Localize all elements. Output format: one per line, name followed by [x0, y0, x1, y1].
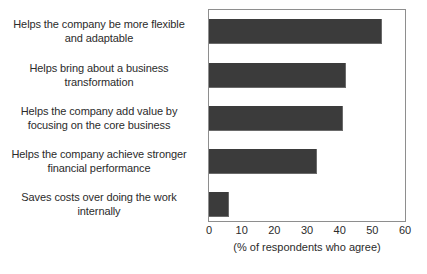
category-label-1-line-0: Helps bring about a business [0, 62, 198, 76]
bar-2 [209, 106, 343, 131]
category-label-3: Helps the company achieve stronger finan… [0, 148, 198, 175]
x-tick-label-0: 0 [206, 224, 212, 237]
category-label-2-line-0: Helps the company add value by [0, 105, 198, 119]
category-label-0-line-1: and adaptable [0, 32, 198, 46]
category-label-1: Helps bring about a business transformat… [0, 62, 198, 89]
bar-chart: Helps the company be more flexible and a… [0, 0, 427, 274]
bar-0 [209, 19, 382, 44]
category-label-4: Saves costs over doing the work internal… [0, 191, 198, 218]
category-label-3-line-1: financial performance [0, 162, 198, 176]
bar-3 [209, 149, 317, 174]
category-label-3-line-0: Helps the company achieve stronger [0, 148, 198, 162]
category-label-4-line-0: Saves costs over doing the work [0, 191, 198, 205]
x-tick-label-40: 40 [334, 224, 346, 237]
bars-layer [209, 10, 405, 221]
category-label-4-line-1: internally [0, 205, 198, 219]
category-label-0-line-0: Helps the company be more flexible [0, 18, 198, 32]
category-labels: Helps the company be more flexible and a… [0, 9, 203, 222]
category-label-2: Helps the company add value by focusing … [0, 105, 198, 132]
plot-area [208, 9, 406, 222]
x-tick-label-30: 30 [301, 224, 313, 237]
x-tick-label-50: 50 [366, 224, 378, 237]
category-label-1-line-1: transformation [0, 76, 198, 90]
x-tick-label-60: 60 [399, 224, 411, 237]
x-axis-title: (% of respondents who agree) [208, 240, 406, 254]
x-tick-label-20: 20 [268, 224, 280, 237]
category-label-2-line-1: focusing on the core business [0, 119, 198, 133]
bar-4 [209, 192, 229, 217]
x-tick-label-10: 10 [236, 224, 248, 237]
x-axis-tick-labels: 0102030405060 [208, 224, 406, 239]
bar-1 [209, 63, 346, 88]
category-label-0: Helps the company be more flexible and a… [0, 18, 198, 45]
